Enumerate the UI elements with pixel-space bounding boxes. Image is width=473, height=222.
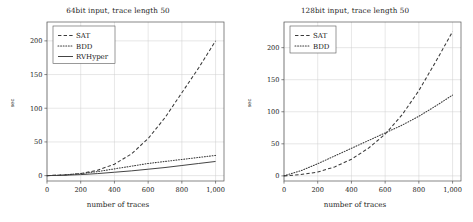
x-tick-label: 0: [45, 186, 49, 194]
x-tick-label: 0: [282, 186, 286, 194]
plot-area-left: 02004006008001,000050100150200SATBDDRVHy…: [0, 0, 236, 222]
chart-panel-left: 64bit input, trace length 50 sec number …: [0, 0, 236, 222]
y-tick-label: 100: [30, 105, 43, 113]
y-tick-label: 0: [38, 172, 42, 180]
x-tick-label: 600: [379, 186, 392, 194]
x-tick-label: 800: [413, 186, 426, 194]
x-tick-label: 800: [176, 186, 189, 194]
legend-label-bdd: BDD: [76, 43, 93, 51]
x-tick-label: 1,000: [206, 186, 225, 194]
legend-label-sat: SAT: [313, 32, 327, 40]
x-tick-label: 200: [311, 186, 324, 194]
legend-label-sat: SAT: [76, 32, 90, 40]
x-tick-label: 200: [74, 186, 87, 194]
y-tick-label: 100: [267, 108, 280, 116]
x-tick-label: 400: [345, 186, 358, 194]
chart-panel-right: 128bit input, trace length 50 sec number…: [237, 0, 473, 222]
figure-two-panel-benchmark: 64bit input, trace length 50 sec number …: [0, 0, 473, 222]
plot-area-right: 02004006008001,000050100150200SATBDD: [237, 0, 473, 222]
y-tick-label: 150: [30, 71, 43, 79]
y-tick-label: 50: [34, 138, 42, 146]
series-line-rvhyper: [47, 161, 216, 175]
series-line-bdd: [284, 95, 453, 176]
y-tick-label: 50: [271, 140, 279, 148]
legend-label-rvhyper: RVHyper: [76, 53, 109, 61]
x-tick-label: 1,000: [443, 186, 462, 194]
x-tick-label: 600: [142, 186, 155, 194]
x-tick-label: 400: [108, 186, 121, 194]
legend-label-bdd: BDD: [313, 43, 330, 51]
y-tick-label: 0: [275, 172, 279, 180]
y-tick-label: 200: [30, 37, 43, 45]
y-tick-label: 200: [267, 44, 280, 52]
series-line-bdd: [47, 155, 216, 175]
y-tick-label: 150: [267, 76, 280, 84]
